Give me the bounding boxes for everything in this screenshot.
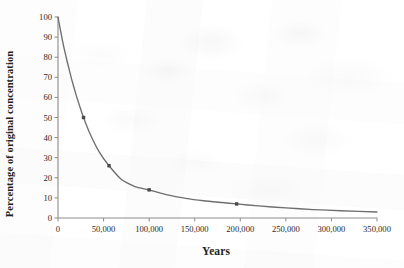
x-axis-tick-label: 50,000 (92, 224, 116, 234)
decay-curve-figure: 0102030405060708090100 050,000100,000150… (0, 0, 404, 268)
axis-lines (58, 17, 377, 218)
y-axis-tick-label: 30 (43, 153, 52, 163)
x-axis-tick-label: 0 (56, 224, 60, 234)
y-axis-title: Percentage of original concentration (4, 51, 15, 217)
x-axis-tick-label: 200,000 (226, 224, 254, 234)
y-axis-tick-label: 0 (48, 213, 52, 223)
x-axis-tick-label: 150,000 (181, 224, 209, 234)
data-point-marker (235, 202, 238, 205)
decay-curve-line (58, 17, 377, 212)
y-axis-tick-label: 40 (43, 133, 52, 143)
x-axis-tick-label: 100,000 (135, 224, 163, 234)
data-point-marker (82, 116, 85, 119)
x-axis-title: Years (202, 245, 230, 257)
y-axis-tick-label: 100 (39, 12, 52, 22)
y-axis-tick-label: 90 (43, 32, 52, 42)
data-point-marker (107, 164, 110, 167)
y-axis-tick-label: 10 (43, 193, 52, 203)
x-axis-tick-label: 350,000 (363, 224, 391, 234)
y-axis-tick-label: 70 (43, 72, 52, 82)
x-axis-tick-label: 250,000 (272, 224, 300, 234)
y-axis-tick-label: 20 (43, 173, 52, 183)
y-axis-tick-label: 60 (43, 92, 52, 102)
y-axis-tick-label: 80 (43, 52, 52, 62)
y-axis-tick-label: 50 (43, 113, 52, 123)
data-point-marker (147, 188, 150, 191)
x-axis-tick-label: 300,000 (317, 224, 345, 234)
